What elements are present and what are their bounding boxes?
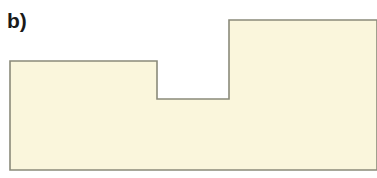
- panel-label: b): [7, 10, 26, 31]
- stepped-polygon-path: [10, 20, 377, 170]
- stepped-polygon-diagram: [0, 0, 377, 178]
- figure-panel-b: b): [0, 0, 377, 178]
